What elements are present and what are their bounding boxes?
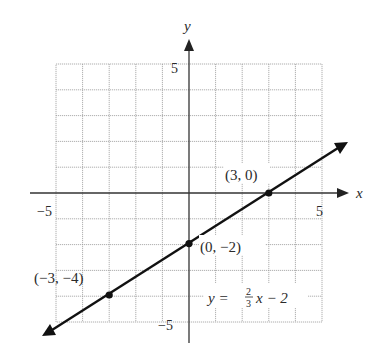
point-label-3-0: (3, 0) [225,167,258,184]
coordinate-plane: x y −5 5 5 −5 (3, 0) (0, −2) (−3, −4) y … [0,0,389,343]
svg-text:y =: y = [206,290,229,306]
y-tick-min: −5 [158,318,173,333]
point-0-neg2 [185,240,192,247]
point-label-neg3-neg4: (−3, −4) [34,270,83,287]
point-neg3-neg4 [106,291,113,298]
svg-text:x − 2: x − 2 [255,290,288,306]
equation-label: y = 2 3 x − 2 [206,286,288,309]
x-axis-arrow-icon [337,188,349,198]
x-axis-label: x [355,185,363,201]
x-tick-min: −5 [37,204,52,219]
y-axis-arrow-icon [184,39,194,51]
y-axis-label: y [182,18,191,34]
point-label-0-neg2: (0, −2) [200,239,241,256]
svg-text:3: 3 [246,298,251,309]
point-3-0 [265,189,272,196]
x-tick-max: 5 [316,204,323,219]
y-tick-max: 5 [171,61,178,76]
svg-text:2: 2 [246,286,251,297]
